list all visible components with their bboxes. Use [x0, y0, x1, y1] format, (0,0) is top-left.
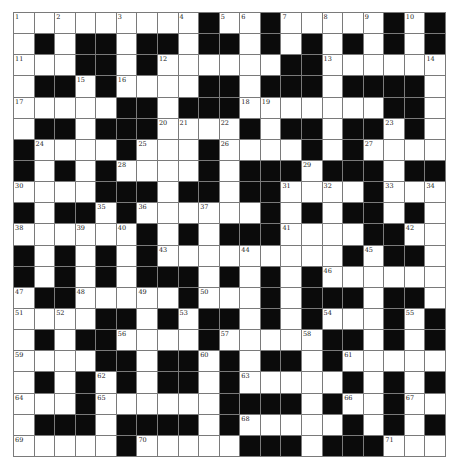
answer-cell[interactable] [240, 203, 260, 223]
answer-cell[interactable] [405, 351, 425, 371]
answer-cell[interactable]: 61 [343, 351, 363, 371]
answer-cell[interactable] [199, 415, 219, 435]
answer-cell[interactable]: 59 [14, 351, 34, 371]
answer-cell[interactable] [158, 224, 178, 244]
answer-cell[interactable] [302, 394, 322, 414]
answer-cell[interactable] [96, 288, 116, 308]
answer-cell[interactable]: 38 [14, 224, 34, 244]
answer-cell[interactable] [364, 372, 384, 392]
answer-cell[interactable] [384, 161, 404, 181]
answer-cell[interactable] [240, 351, 260, 371]
answer-cell[interactable] [364, 288, 384, 308]
answer-cell[interactable] [14, 415, 34, 435]
answer-cell[interactable]: 40 [117, 224, 137, 244]
answer-cell[interactable]: 52 [55, 309, 75, 329]
answer-cell[interactable]: 58 [302, 330, 322, 350]
answer-cell[interactable]: 17 [14, 98, 34, 118]
answer-cell[interactable]: 33 [384, 182, 404, 202]
answer-cell[interactable] [323, 203, 343, 223]
answer-cell[interactable]: 44 [240, 246, 260, 266]
answer-cell[interactable] [323, 34, 343, 54]
answer-cell[interactable] [179, 161, 199, 181]
answer-cell[interactable] [96, 98, 116, 118]
answer-cell[interactable] [240, 309, 260, 329]
answer-cell[interactable] [364, 55, 384, 75]
answer-cell[interactable] [425, 140, 445, 160]
answer-cell[interactable] [158, 288, 178, 308]
answer-cell[interactable]: 62 [96, 372, 116, 392]
answer-cell[interactable]: 36 [137, 203, 157, 223]
answer-cell[interactable] [240, 55, 260, 75]
answer-cell[interactable] [302, 182, 322, 202]
answer-cell[interactable] [55, 98, 75, 118]
answer-cell[interactable] [323, 224, 343, 244]
answer-cell[interactable] [302, 351, 322, 371]
answer-cell[interactable]: 39 [76, 224, 96, 244]
answer-cell[interactable] [137, 372, 157, 392]
answer-cell[interactable] [405, 436, 425, 456]
answer-cell[interactable] [117, 267, 137, 287]
answer-cell[interactable] [323, 415, 343, 435]
answer-cell[interactable]: 7 [281, 13, 301, 33]
answer-cell[interactable] [240, 330, 260, 350]
answer-cell[interactable]: 54 [323, 309, 343, 329]
answer-cell[interactable] [158, 203, 178, 223]
answer-cell[interactable]: 18 [240, 98, 260, 118]
answer-cell[interactable] [261, 372, 281, 392]
answer-cell[interactable] [55, 55, 75, 75]
answer-cell[interactable] [158, 98, 178, 118]
answer-cell[interactable] [199, 394, 219, 414]
answer-cell[interactable] [35, 203, 55, 223]
answer-cell[interactable]: 49 [137, 288, 157, 308]
answer-cell[interactable] [425, 436, 445, 456]
answer-cell[interactable] [220, 288, 240, 308]
answer-cell[interactable] [220, 203, 240, 223]
answer-cell[interactable] [76, 140, 96, 160]
answer-cell[interactable] [405, 182, 425, 202]
answer-cell[interactable] [364, 415, 384, 435]
answer-cell[interactable]: 13 [323, 55, 343, 75]
answer-cell[interactable]: 25 [137, 140, 157, 160]
answer-cell[interactable] [117, 246, 137, 266]
answer-cell[interactable]: 50 [199, 288, 219, 308]
answer-cell[interactable]: 55 [405, 309, 425, 329]
answer-cell[interactable]: 24 [35, 140, 55, 160]
answer-cell[interactable] [240, 34, 260, 54]
answer-cell[interactable] [281, 372, 301, 392]
answer-cell[interactable] [261, 330, 281, 350]
answer-cell[interactable] [261, 55, 281, 75]
answer-cell[interactable] [364, 394, 384, 414]
answer-cell[interactable] [384, 55, 404, 75]
answer-cell[interactable] [281, 98, 301, 118]
answer-cell[interactable]: 70 [137, 436, 157, 456]
answer-cell[interactable]: 63 [240, 372, 260, 392]
answer-cell[interactable] [76, 436, 96, 456]
answer-cell[interactable]: 3 [117, 13, 137, 33]
answer-cell[interactable]: 65 [96, 394, 116, 414]
answer-cell[interactable] [35, 55, 55, 75]
answer-cell[interactable]: 22 [220, 119, 240, 139]
answer-cell[interactable] [425, 246, 445, 266]
answer-cell[interactable] [76, 351, 96, 371]
answer-cell[interactable] [343, 309, 363, 329]
answer-cell[interactable] [240, 267, 260, 287]
answer-cell[interactable] [76, 267, 96, 287]
answer-cell[interactable] [343, 224, 363, 244]
answer-cell[interactable] [281, 309, 301, 329]
answer-cell[interactable] [199, 267, 219, 287]
answer-cell[interactable] [220, 182, 240, 202]
answer-cell[interactable]: 48 [76, 288, 96, 308]
answer-cell[interactable]: 12 [158, 55, 178, 75]
answer-cell[interactable]: 2 [55, 13, 75, 33]
answer-cell[interactable] [76, 182, 96, 202]
answer-cell[interactable]: 19 [261, 98, 281, 118]
answer-cell[interactable] [55, 372, 75, 392]
answer-cell[interactable] [76, 161, 96, 181]
answer-cell[interactable] [343, 55, 363, 75]
answer-cell[interactable] [179, 140, 199, 160]
answer-cell[interactable] [302, 13, 322, 33]
answer-cell[interactable]: 26 [220, 140, 240, 160]
answer-cell[interactable] [405, 267, 425, 287]
answer-cell[interactable] [405, 372, 425, 392]
answer-cell[interactable] [35, 161, 55, 181]
